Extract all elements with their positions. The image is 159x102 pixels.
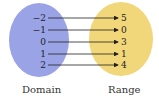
range-value: 4 xyxy=(121,61,127,70)
range-value: 5 xyxy=(121,14,127,23)
domain-value: 2 xyxy=(32,61,46,70)
range-value: 0 xyxy=(121,26,127,35)
range-value: 1 xyxy=(121,50,127,59)
range-value: 3 xyxy=(121,38,127,47)
domain-value: 0 xyxy=(32,38,46,47)
domain-value: 1 xyxy=(32,50,46,59)
domain-value: −1 xyxy=(32,26,46,35)
domain-value: −2 xyxy=(32,14,46,23)
domain-label: Domain xyxy=(22,84,61,95)
range-label: Range xyxy=(108,84,140,95)
